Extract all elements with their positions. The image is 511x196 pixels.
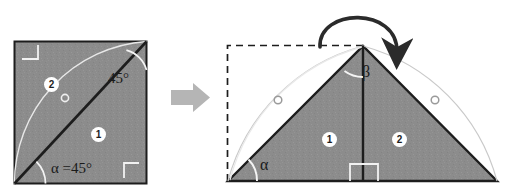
label-alpha-triangle: α [260,157,268,173]
arc-midpoint-circle-right-icon [431,96,439,104]
arc-midpoint-circle-left-icon [274,96,282,104]
piece-badge-square-2: 2 [44,77,59,92]
transform-arrow [171,83,210,112]
geometry-figure-page: 45° α =45° β α 1 2 1 2 [0,0,511,196]
piece-badge-triangle-2: 2 [392,132,407,147]
label-alpha-45-bottom: α =45° [51,161,92,176]
transform-arrow-icon [171,83,210,112]
label-angle-45-top: 45° [108,71,129,86]
piece-badge-triangle-1: 1 [322,132,337,147]
piece-badge-square-1: 1 [91,127,106,142]
label-beta: β [362,64,370,80]
